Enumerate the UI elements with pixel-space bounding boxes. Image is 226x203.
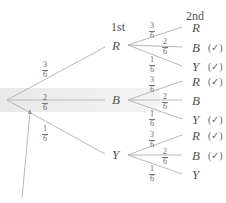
prob-R-B: 26 <box>162 38 168 56</box>
node-Y-B: B <box>192 148 200 164</box>
check-mark-R-Y: (✓) <box>208 61 223 72</box>
branch-R-R <box>128 27 182 45</box>
check-mark-Y-B: (✓) <box>208 150 223 161</box>
prob-root-Y: 16 <box>42 125 48 143</box>
node-first-R: R <box>112 38 120 54</box>
prob-Y-Y: 16 <box>149 165 155 183</box>
prob-B-B: 26 <box>162 93 168 111</box>
branch-root-Y <box>7 100 105 154</box>
branch-B-Y <box>128 100 182 119</box>
check-mark-B-Y: (✓) <box>208 114 223 125</box>
node-B-B: B <box>192 93 200 109</box>
node-Y-Y: Y <box>192 167 199 183</box>
node-B-Y: Y <box>192 112 199 128</box>
prob-B-Y: 16 <box>149 110 155 128</box>
check-mark-R-B: (✓) <box>208 42 223 53</box>
node-R-B: B <box>192 40 200 56</box>
pointer-arrow-line <box>22 112 30 198</box>
prob-Y-B: 26 <box>162 148 168 166</box>
node-B-R: R <box>192 74 200 90</box>
node-R-R: R <box>192 20 200 36</box>
prob-R-R: 36 <box>149 22 155 40</box>
node-first-Y: Y <box>112 147 119 163</box>
header-first: 1st <box>111 20 125 35</box>
prob-R-Y: 16 <box>149 56 155 74</box>
node-R-Y: Y <box>192 59 199 75</box>
prob-Y-R: 36 <box>149 131 155 149</box>
check-mark-B-R: (✓) <box>208 76 223 87</box>
branch-root-R <box>7 47 105 100</box>
branch-R-B <box>128 45 182 47</box>
prob-root-B: 26 <box>42 94 48 112</box>
branch-R-Y <box>128 45 182 66</box>
node-Y-R: R <box>192 128 200 144</box>
node-first-B: B <box>112 92 120 108</box>
branch-B-R <box>128 81 182 100</box>
branch-Y-Y <box>128 155 182 174</box>
check-mark-Y-R: (✓) <box>208 130 223 141</box>
prob-B-R: 36 <box>149 76 155 94</box>
branch-Y-R <box>128 135 182 155</box>
prob-root-R: 36 <box>42 61 48 79</box>
probability-tree-diagram: 1st 2nd R B Y 36 26 16 36 26 16 R B Y (✓… <box>0 0 226 203</box>
